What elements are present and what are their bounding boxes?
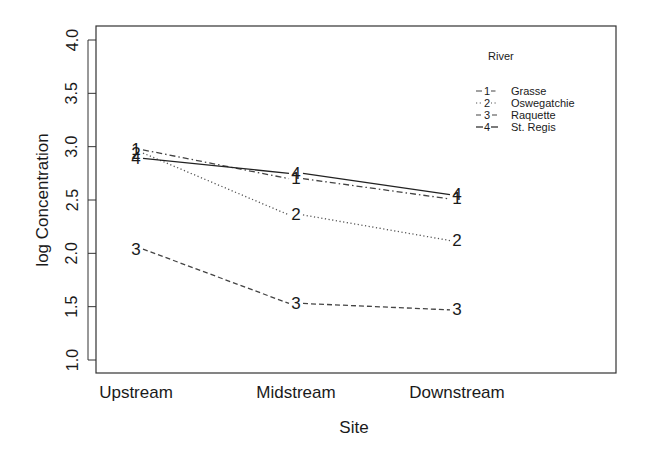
y-tick-label: 1.5 [64,295,81,317]
point-marker: 2 [452,231,461,250]
y-axis-label: log Concentration [33,133,52,266]
y-tick-label: 4.0 [64,29,81,51]
x-tick-label: Downstream [409,383,504,402]
legend-label: Grasse [511,85,546,97]
x-axis-label: Site [339,418,368,437]
point-marker: 4 [131,149,140,168]
y-tick-label: 3.5 [64,82,81,104]
y-tick-label: 1.0 [64,349,81,371]
y-tick-label: 2.5 [64,189,81,211]
point-marker: 3 [131,240,140,259]
point-marker: 4 [291,164,300,183]
legend-label: St. Regis [511,121,556,133]
legend-marker: 1 [484,85,490,97]
series-oswegatchie: 222 [131,144,461,250]
y-axis: 1.01.52.02.53.03.54.0 [64,29,97,371]
legend-label: Raquette [511,109,556,121]
x-tick-label: Midstream [256,383,335,402]
point-marker: 4 [452,185,461,204]
series-st-regis: 444 [131,149,461,204]
legend-marker: 4 [484,121,490,133]
legend-label: Oswegatchie [511,97,575,109]
point-marker: 3 [452,300,461,319]
y-tick-label: 2.0 [64,242,81,264]
y-tick-label: 3.0 [64,135,81,157]
plot-frame [96,26,616,373]
legend-title: River [488,50,514,62]
x-axis: UpstreamMidstreamDownstream [99,383,505,402]
legend: River 1Grasse2Oswegatchie3Raquette4St. R… [476,50,575,133]
legend-marker: 3 [484,109,490,121]
point-marker: 2 [291,205,300,224]
legend-marker: 2 [484,97,490,109]
interaction-plot: 1.01.52.02.53.03.54.0 UpstreamMidstreamD… [0,0,648,461]
series-raquette: 333 [131,240,461,320]
x-tick-label: Upstream [99,383,173,402]
series-lines: 111222333444 [131,140,461,319]
point-marker: 3 [291,294,300,313]
